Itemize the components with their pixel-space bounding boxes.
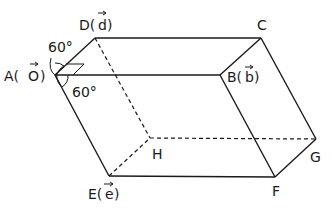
- svg-text:O: O: [28, 68, 39, 84]
- vector-arrow-icon: [98, 11, 106, 15]
- svg-text:e: e: [105, 186, 114, 202]
- label-G: G: [310, 149, 321, 165]
- plane-marker: [66, 64, 84, 75]
- vector-arrow-icon: [30, 62, 38, 66]
- angle-arc-BAE: [62, 75, 68, 87]
- parallelepiped-diagram: A( O ) D( d ) C B( b ) 60° 60° H G E( e …: [0, 0, 332, 214]
- svg-text:A(: A(: [4, 68, 19, 84]
- label-D: D( d ): [79, 11, 112, 33]
- svg-text:b: b: [245, 69, 254, 85]
- label-C: C: [257, 17, 267, 33]
- label-E: E( e ): [88, 182, 119, 202]
- svg-text:D(: D(: [79, 17, 95, 33]
- edge-HG: [150, 138, 316, 139]
- svg-text:d: d: [98, 17, 107, 33]
- label-F: F: [272, 183, 280, 199]
- edge-CG: [261, 38, 316, 139]
- svg-text:): ): [254, 69, 259, 85]
- svg-text:): ): [40, 68, 45, 84]
- angle-label-BAE: 60°: [72, 84, 97, 100]
- edge-EH: [109, 138, 150, 176]
- angle-arc-DAB: [55, 63, 64, 66]
- angle-label-DAB: 60°: [48, 39, 73, 55]
- svg-text:B(: B(: [227, 69, 242, 85]
- svg-text:E(: E(: [88, 186, 102, 202]
- angle-arc-top: [50, 58, 55, 75]
- svg-text:): ): [107, 17, 112, 33]
- edge-EF: [109, 176, 275, 177]
- label-A: A( O ): [4, 62, 45, 84]
- label-H: H: [152, 146, 163, 162]
- svg-text:): ): [114, 186, 119, 202]
- edge-BF: [220, 75, 275, 177]
- label-B: B( b ): [227, 65, 259, 85]
- edge-DH: [95, 38, 150, 138]
